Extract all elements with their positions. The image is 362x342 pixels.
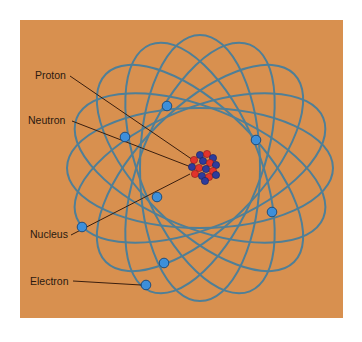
electron-dot bbox=[251, 135, 261, 145]
proton-particle bbox=[191, 170, 198, 177]
proton-particle bbox=[190, 156, 197, 163]
electron-dot bbox=[120, 132, 130, 142]
label-neutron: Neutron bbox=[28, 114, 66, 126]
neutron-particle bbox=[199, 157, 206, 164]
electron-dot bbox=[162, 101, 172, 111]
neutron-particle bbox=[212, 171, 219, 178]
electron-dot bbox=[267, 207, 277, 217]
electron-dot bbox=[141, 280, 151, 290]
atom-diagram: Proton Neutron Nucleus Electron bbox=[0, 0, 362, 342]
neutron-particle bbox=[188, 163, 195, 170]
neutron-particle bbox=[201, 177, 208, 184]
electron-dot bbox=[77, 222, 87, 232]
neutron-particle bbox=[202, 165, 209, 172]
label-electron: Electron bbox=[30, 275, 69, 287]
label-nucleus: Nucleus bbox=[30, 228, 68, 240]
label-proton: Proton bbox=[35, 69, 66, 81]
electron-dot bbox=[159, 258, 169, 268]
diagram-background bbox=[20, 20, 343, 318]
electron-dot bbox=[152, 192, 162, 202]
